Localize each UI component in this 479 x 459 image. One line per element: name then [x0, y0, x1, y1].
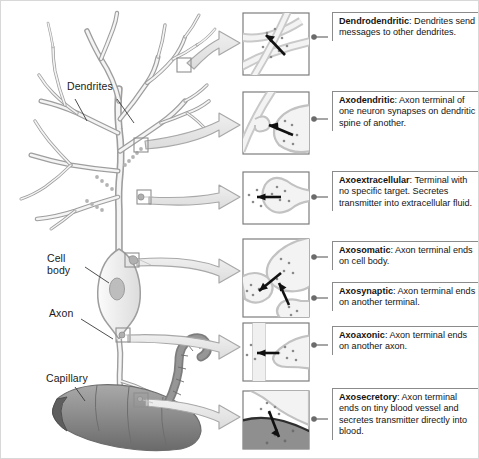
label-cell-body: Cell body [47, 253, 70, 276]
caption-term-dendrodendritic: Dendrodendritic [339, 16, 409, 26]
caption-term-axosecretory: Axosecretory [339, 392, 397, 402]
leader-capillary [75, 387, 85, 401]
caption-axoaxonic: Axoaxonic: Axon terminal ends on another… [332, 326, 478, 355]
caption-term-axodendritic: Axodendritic [339, 95, 394, 105]
caption-axodendritic: Axodendritic: Axon terminal of one neuro… [332, 91, 478, 131]
label-dendrites: Dendrites [67, 81, 113, 93]
caption-term-axosomatic: Axosomatic [339, 245, 390, 255]
synapse-types-figure: Dendrites Cell body Axon Capillary Dendr… [0, 0, 479, 459]
caption-term-axosynaptic: Axosynaptic [339, 286, 393, 296]
caption-term-axoextracellular: Axoextracellular [339, 175, 410, 185]
leader-cell-body [85, 267, 109, 283]
caption-term-axoaxonic: Axoaxonic [339, 330, 385, 340]
caption-dendrodendritic: Dendrodendritic: Dendrites send messages… [332, 12, 478, 41]
label-capillary: Capillary [46, 373, 88, 385]
leader-dendrites-left [75, 99, 87, 121]
caption-axoextracellular: Axoextracellular: Terminal with no speci… [332, 171, 478, 211]
caption-axosecretory: Axosecretory: Axon terminal ends on tiny… [332, 388, 478, 440]
label-axon: Axon [49, 308, 73, 320]
leader-axon [81, 319, 113, 339]
caption-axosynaptic: Axosynaptic: Axon terminal ends on anoth… [332, 282, 478, 311]
caption-axosomatic: Axosomatic: Axon terminal ends on cell b… [332, 241, 478, 270]
leader-dendrites-right [117, 99, 134, 123]
